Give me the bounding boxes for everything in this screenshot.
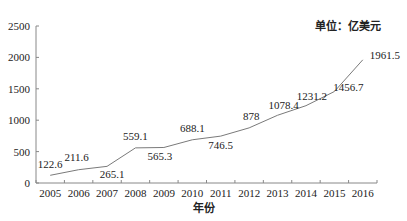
x-tick-label: 2016 — [352, 187, 375, 199]
data-label: 1456.7 — [333, 81, 364, 93]
x-tick-label: 2009 — [153, 187, 176, 199]
x-tick-label: 2012 — [238, 187, 260, 199]
y-tick-label: 0 — [25, 177, 31, 189]
data-label: 559.1 — [123, 130, 148, 142]
x-tick-label: 2008 — [124, 187, 147, 199]
data-label: 122.6 — [38, 158, 63, 170]
x-tick-label: 2011 — [210, 187, 232, 199]
data-label: 211.6 — [64, 151, 89, 163]
series-line — [50, 60, 363, 175]
x-tick-label: 2007 — [96, 187, 119, 199]
x-tick-label: 2010 — [181, 187, 204, 199]
data-label: 265.1 — [100, 168, 125, 180]
data-label: 878 — [243, 110, 260, 122]
data-label: 565.3 — [148, 150, 173, 162]
y-tick-label: 500 — [14, 146, 31, 158]
data-label: 1231.2 — [297, 90, 327, 102]
data-label: 1961.5 — [370, 49, 401, 61]
x-tick-label: 2013 — [267, 187, 290, 199]
data-label: 688.1 — [180, 122, 205, 134]
y-tick-label: 1000 — [8, 114, 31, 126]
data-label: 1078.4 — [268, 99, 299, 111]
data-series — [50, 60, 363, 175]
y-tick-label: 2000 — [8, 51, 31, 63]
y-tick-label: 2500 — [8, 20, 31, 32]
x-tick-label: 2006 — [68, 187, 91, 199]
y-tick-label: 1500 — [8, 83, 31, 95]
x-tick-label: 2005 — [39, 187, 62, 199]
x-tick-label: 2015 — [323, 187, 346, 199]
data-label: 746.5 — [208, 139, 233, 151]
axes: 0500100015002000250020052006200720082009… — [8, 20, 377, 199]
data-labels: 122.6211.6265.1559.1565.3688.1746.587810… — [38, 49, 401, 181]
x-tick-label: 2014 — [295, 187, 318, 199]
line-chart: 0500100015002000250020052006200720082009… — [0, 0, 407, 221]
unit-label: 单位：亿美元 — [315, 17, 381, 33]
x-axis-title: 年份 — [193, 199, 215, 215]
